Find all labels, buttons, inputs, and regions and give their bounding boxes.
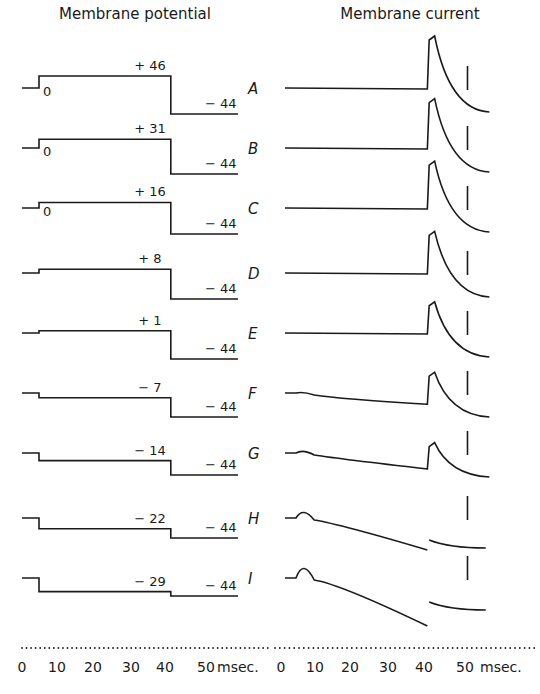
axis-dot bbox=[108, 647, 110, 649]
step-potential-label: + 16 bbox=[134, 184, 166, 199]
axis-dot bbox=[167, 647, 169, 649]
axis-dot bbox=[158, 647, 160, 649]
x-tick-label: 50 bbox=[456, 659, 474, 675]
axis-dot bbox=[126, 647, 128, 649]
current-trace bbox=[285, 568, 486, 626]
axis-dot bbox=[490, 647, 492, 649]
x-tick-label: 30 bbox=[379, 659, 397, 675]
current-trace bbox=[285, 161, 489, 232]
axis-dot bbox=[258, 647, 260, 649]
row-letter: C bbox=[248, 200, 259, 218]
axis-dot bbox=[226, 647, 228, 649]
axis-dot bbox=[249, 647, 251, 649]
x-tick-label: 10 bbox=[48, 659, 66, 675]
axis-dot bbox=[418, 647, 420, 649]
step-potential-label: − 29 bbox=[134, 574, 166, 589]
axis-dot bbox=[230, 647, 232, 649]
row-letter: B bbox=[248, 140, 258, 158]
axis-dot bbox=[351, 647, 353, 649]
step-potential-label: − 14 bbox=[134, 443, 166, 458]
row-letter: A bbox=[247, 80, 258, 98]
axis-dot bbox=[279, 647, 281, 649]
trace-row-G: − 14− 44G bbox=[22, 431, 489, 477]
axis-dot bbox=[466, 647, 468, 649]
axis-dot bbox=[303, 647, 305, 649]
current-trace bbox=[285, 36, 489, 112]
axis-dot bbox=[385, 647, 387, 649]
trace-row-D: + 8− 44D bbox=[22, 231, 489, 299]
current-trace bbox=[285, 512, 486, 550]
axis-dot bbox=[529, 647, 531, 649]
figure: Membrane potential Membrane current + 46… bbox=[0, 0, 540, 694]
axis-dot bbox=[337, 647, 339, 649]
row-letter: I bbox=[248, 570, 253, 588]
axis-dot bbox=[452, 647, 454, 649]
axis-dot bbox=[293, 647, 295, 649]
step-potential-label: + 46 bbox=[134, 58, 166, 73]
axis-dot bbox=[394, 647, 396, 649]
current-trace bbox=[285, 443, 489, 477]
axis-dot bbox=[289, 647, 291, 649]
axis-dot bbox=[112, 647, 114, 649]
axis-dot bbox=[481, 647, 483, 649]
axis-dot bbox=[253, 647, 255, 649]
axis-dot bbox=[308, 647, 310, 649]
step-potential-label: + 31 bbox=[134, 121, 166, 136]
axis-dot bbox=[433, 647, 435, 649]
axis-dot bbox=[76, 647, 78, 649]
axis-dot bbox=[380, 647, 382, 649]
axis-dot bbox=[130, 647, 132, 649]
axis-dot bbox=[500, 647, 502, 649]
current-trace bbox=[285, 302, 489, 357]
axis-dot bbox=[212, 647, 214, 649]
x-tick-label: 40 bbox=[156, 659, 174, 675]
axis-dot bbox=[298, 647, 300, 649]
trace-row-I: − 29− 44I bbox=[22, 556, 486, 626]
axis-dot bbox=[457, 647, 459, 649]
axis-dot bbox=[317, 647, 319, 649]
axis-dot bbox=[199, 647, 201, 649]
x-tick-label: 10 bbox=[306, 659, 324, 675]
holding-potential-label: − 44 bbox=[205, 399, 237, 414]
axis-dot bbox=[176, 647, 178, 649]
axis-dot bbox=[117, 647, 119, 649]
step-potential-label: + 1 bbox=[138, 313, 161, 328]
axis-dot bbox=[203, 647, 205, 649]
axis-dot bbox=[428, 647, 430, 649]
axis-dot bbox=[194, 647, 196, 649]
axis-dot bbox=[322, 647, 324, 649]
current-trace bbox=[285, 99, 489, 172]
axis-dot bbox=[21, 647, 23, 649]
holding-potential-label: − 44 bbox=[205, 156, 237, 171]
axis-dot bbox=[262, 647, 264, 649]
axis-dot bbox=[221, 647, 223, 649]
axis-dot bbox=[313, 647, 315, 649]
trace-row-C: + 16− 440C bbox=[22, 161, 489, 234]
axis-dot bbox=[524, 647, 526, 649]
axis-dot bbox=[399, 647, 401, 649]
x-tick-label: 20 bbox=[341, 659, 359, 675]
axis-dot bbox=[471, 647, 473, 649]
axis-dot bbox=[39, 647, 41, 649]
axis-dot bbox=[89, 647, 91, 649]
current-trace bbox=[285, 372, 489, 417]
axis-dot bbox=[284, 647, 286, 649]
trace-row-H: − 22− 44H bbox=[22, 496, 486, 550]
axis-dot bbox=[437, 647, 439, 649]
axis-dot bbox=[235, 647, 237, 649]
axis-dot bbox=[85, 647, 87, 649]
axis-dot bbox=[389, 647, 391, 649]
current-trace bbox=[285, 231, 489, 297]
axis-dot bbox=[404, 647, 406, 649]
holding-potential-label: − 44 bbox=[205, 96, 237, 111]
axis-dot bbox=[244, 647, 246, 649]
axis-dot bbox=[332, 647, 334, 649]
x-tick-label: 50 bbox=[197, 659, 215, 675]
row-letter: D bbox=[248, 265, 260, 283]
axis-dot bbox=[30, 647, 32, 649]
trace-row-F: − 7− 44F bbox=[22, 371, 489, 417]
panel-title-potential: Membrane potential bbox=[59, 5, 211, 23]
axis-dot bbox=[346, 647, 348, 649]
x-unit-label: msec. bbox=[217, 659, 259, 675]
x-tick-label: 0 bbox=[277, 659, 286, 675]
